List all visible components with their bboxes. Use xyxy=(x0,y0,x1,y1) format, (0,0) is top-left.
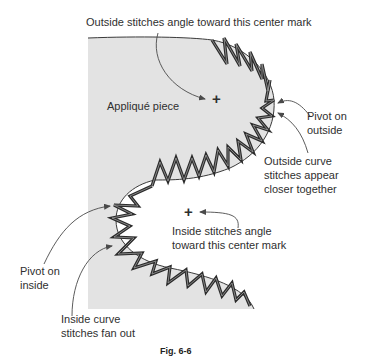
figure-caption: Fig. 6-6 xyxy=(160,346,192,356)
label-pivot-outside-line2: outside xyxy=(307,124,342,137)
label-outside-curve-line3: closer together xyxy=(264,183,337,196)
label-pivot-inside-line2: inside xyxy=(20,279,49,292)
inside-center-mark: + xyxy=(184,205,193,218)
arrow-outside-curve xyxy=(278,113,308,153)
label-inside-center-line1: Inside stitches angle xyxy=(172,225,272,238)
outside-center-mark: + xyxy=(212,92,221,105)
label-outside-curve-line2: stitches appear xyxy=(264,169,339,182)
label-outside-center: Outside stitches angle toward this cente… xyxy=(86,16,312,29)
label-inside-curve-line1: Inside curve xyxy=(61,313,120,326)
label-pivot-outside-line1: Pivot on xyxy=(307,110,347,123)
label-inside-center-line2: toward this center mark xyxy=(172,239,286,252)
label-pivot-inside-line1: Pivot on xyxy=(20,265,60,278)
label-applique-piece: Appliqué piece xyxy=(107,100,179,113)
arrow-pivot-outside xyxy=(278,101,310,116)
label-inside-curve-line2: stitches fan out xyxy=(61,327,135,340)
label-outside-curve-line1: Outside curve xyxy=(264,155,332,168)
figure-canvas: + + Outside stitches angle toward this c… xyxy=(0,0,365,357)
